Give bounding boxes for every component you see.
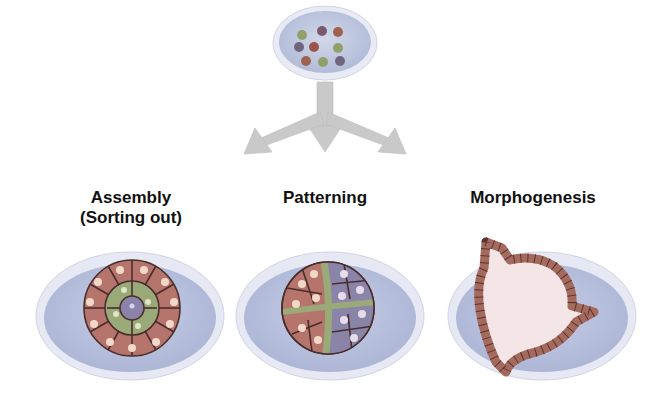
label-line-1: Morphogenesis xyxy=(448,188,618,208)
source-dish xyxy=(272,4,378,82)
branching-arrows xyxy=(240,82,410,162)
dish-assembly xyxy=(32,244,228,384)
stage-label-assembly: Assembly (Sorting out) xyxy=(56,188,206,228)
label-line-1: Assembly xyxy=(56,188,206,208)
dish-patterning xyxy=(232,244,428,384)
cell-aggregate-sorted xyxy=(84,260,180,356)
stage-label-patterning: Patterning xyxy=(255,188,395,208)
stage-label-morphogenesis: Morphogenesis xyxy=(448,188,618,208)
dish-morphogenesis xyxy=(444,244,640,384)
label-line-2: (Sorting out) xyxy=(56,208,206,228)
label-line-1: Patterning xyxy=(255,188,395,208)
